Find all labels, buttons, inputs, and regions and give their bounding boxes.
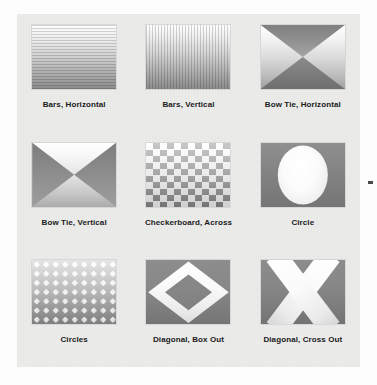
circle-shape bbox=[278, 145, 328, 204]
bars-vertical-swatch[interactable] bbox=[146, 25, 230, 89]
effect-cell-circles[interactable]: Circles bbox=[17, 249, 131, 367]
swatch-artwork bbox=[261, 25, 345, 89]
checkerboard-swatch[interactable] bbox=[146, 143, 230, 207]
scan-artifact-dash bbox=[368, 181, 373, 184]
effect-cell-bars-vertical[interactable]: Bars, Vertical bbox=[131, 14, 245, 132]
effect-label: Circles bbox=[60, 335, 87, 345]
effect-cell-bars-horizontal[interactable]: Bars, Horizontal bbox=[17, 14, 131, 132]
effect-label: Checkerboard, Across bbox=[145, 218, 232, 228]
bow-tie-horizontal-swatch[interactable] bbox=[261, 25, 345, 89]
bow-tie-vertical-swatch[interactable] bbox=[32, 143, 116, 207]
effect-cell-circle[interactable]: Circle bbox=[246, 132, 360, 250]
effect-label: Circle bbox=[291, 218, 314, 228]
swatch-artwork bbox=[146, 143, 230, 207]
triangle-top bbox=[261, 25, 345, 57]
effect-cell-bow-tie-vertical[interactable]: Bow Tie, Vertical bbox=[17, 132, 131, 250]
swatch-artwork bbox=[32, 143, 116, 207]
circles-swatch[interactable] bbox=[32, 260, 116, 324]
bars-horizontal-swatch[interactable] bbox=[32, 25, 116, 89]
triangle-left bbox=[32, 143, 74, 207]
effect-cell-diagonal-box-out[interactable]: Diagonal, Box Out bbox=[131, 249, 245, 367]
circle-swatch[interactable] bbox=[261, 143, 345, 207]
effect-label: Bow Tie, Vertical bbox=[42, 218, 107, 228]
effect-cell-checkerboard-across[interactable]: Checkerboard, Across bbox=[131, 132, 245, 250]
effect-cell-diagonal-cross-out[interactable]: Diagonal, Cross Out bbox=[246, 249, 360, 367]
swatch-artwork bbox=[32, 25, 116, 89]
swatch-artwork bbox=[261, 143, 345, 207]
effect-label: Diagonal, Cross Out bbox=[263, 335, 342, 345]
effects-grid: Bars, Horizontal Bars, Vertical Bow Tie,… bbox=[17, 14, 360, 367]
effect-cell-bow-tie-horizontal[interactable]: Bow Tie, Horizontal bbox=[246, 14, 360, 132]
effect-label: Bars, Vertical bbox=[162, 100, 214, 110]
swatch-artwork bbox=[146, 25, 230, 89]
effect-label: Bow Tie, Horizontal bbox=[265, 100, 341, 110]
diagonal-cross-out-swatch[interactable] bbox=[261, 260, 345, 324]
effect-label: Bars, Horizontal bbox=[43, 100, 106, 110]
swatch-artwork bbox=[32, 260, 116, 324]
triangle-right bbox=[74, 143, 116, 207]
transition-effects-panel: Bars, Horizontal Bars, Vertical Bow Tie,… bbox=[17, 14, 360, 367]
swatch-artwork bbox=[146, 260, 230, 324]
swatch-artwork bbox=[261, 260, 345, 324]
diagonal-box-out-swatch[interactable] bbox=[146, 260, 230, 324]
triangle-bottom bbox=[261, 57, 345, 89]
effect-label: Diagonal, Box Out bbox=[153, 335, 224, 345]
scanned-page: Bars, Horizontal Bars, Vertical Bow Tie,… bbox=[0, 0, 377, 385]
